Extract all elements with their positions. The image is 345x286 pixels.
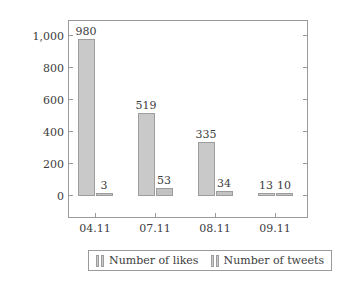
y-tick-label: 800 bbox=[43, 62, 64, 75]
legend-entry-likes: Number of likes bbox=[96, 254, 199, 267]
y-tick-mark bbox=[69, 131, 73, 132]
y-tick-label: 0 bbox=[57, 190, 64, 203]
x-tick-label: 08.11 bbox=[199, 222, 231, 235]
x-tick-label: 09.11 bbox=[259, 222, 291, 235]
y-tick-mark bbox=[303, 131, 307, 132]
y-tick-mark bbox=[303, 195, 307, 196]
legend-entry-tweets: Number of tweets bbox=[211, 254, 325, 267]
bar-likes: 13 bbox=[258, 193, 275, 196]
y-tick-label: 1,000 bbox=[33, 30, 65, 43]
legend-label-likes: Number of likes bbox=[109, 254, 199, 267]
y-tick-label: 600 bbox=[43, 94, 64, 107]
legend-swatch-tweets-icon bbox=[211, 255, 220, 267]
bar-tweets: 53 bbox=[156, 188, 173, 196]
x-tick-mark bbox=[275, 213, 276, 217]
y-tick-mark bbox=[69, 163, 73, 164]
x-tick-mark bbox=[95, 213, 96, 217]
chart-legend: Number of likes Number of tweets bbox=[88, 250, 332, 271]
bar-value-label: 10 bbox=[277, 180, 291, 192]
x-tick-mark bbox=[215, 213, 216, 217]
y-tick-mark bbox=[303, 163, 307, 164]
y-tick-label: 200 bbox=[43, 158, 64, 171]
bar-value-label: 519 bbox=[136, 100, 157, 112]
plot-area: 02004006008001,00004.11980307.115195308.… bbox=[68, 20, 308, 218]
y-tick-mark bbox=[69, 35, 73, 36]
bar-value-label: 980 bbox=[76, 26, 97, 38]
bar-value-label: 335 bbox=[196, 129, 217, 141]
x-tick-label: 07.11 bbox=[139, 222, 171, 235]
bar-likes: 335 bbox=[198, 142, 215, 196]
bar-chart: Keyword: “Child alert” 02004006008001,00… bbox=[0, 0, 345, 286]
legend-label-tweets: Number of tweets bbox=[224, 254, 325, 267]
y-tick-mark bbox=[69, 67, 73, 68]
plot-inner: 02004006008001,00004.11980307.115195308.… bbox=[69, 21, 307, 217]
bar-value-label: 3 bbox=[101, 180, 108, 192]
bar-value-label: 13 bbox=[259, 180, 273, 192]
bar-likes: 980 bbox=[78, 39, 95, 196]
y-tick-mark bbox=[303, 67, 307, 68]
bar-value-label: 53 bbox=[157, 175, 171, 187]
x-tick-mark bbox=[155, 213, 156, 217]
y-tick-label: 400 bbox=[43, 126, 64, 139]
bar-value-label: 34 bbox=[217, 178, 231, 190]
x-tick-label: 04.11 bbox=[79, 222, 111, 235]
y-tick-mark bbox=[69, 195, 73, 196]
legend-swatch-likes-icon bbox=[96, 255, 105, 267]
y-tick-mark bbox=[303, 35, 307, 36]
y-tick-mark bbox=[303, 99, 307, 100]
bar-tweets: 34 bbox=[216, 191, 233, 196]
y-tick-mark bbox=[69, 99, 73, 100]
bar-tweets: 10 bbox=[276, 193, 293, 196]
bar-likes: 519 bbox=[138, 113, 155, 196]
bar-tweets: 3 bbox=[96, 193, 113, 196]
